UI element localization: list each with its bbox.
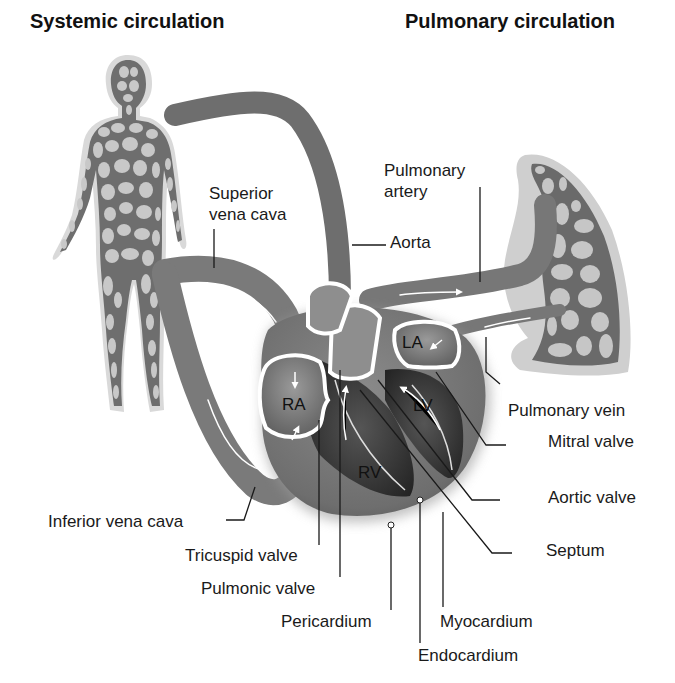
label-septum: Septum — [546, 540, 605, 561]
label-mitral-valve: Mitral valve — [548, 431, 634, 452]
label-pericardium: Pericardium — [281, 611, 372, 632]
endocardium-point — [417, 497, 423, 503]
label-myocardium: Myocardium — [440, 611, 533, 632]
circulation-diagram — [0, 0, 675, 683]
label-pulmonary-artery: Pulmonary artery — [384, 160, 465, 202]
label-aortic-valve: Aortic valve — [548, 487, 636, 508]
chamber-label-ra: RA — [282, 395, 306, 415]
label-superior-vena-cava: Superior vena cava — [209, 183, 287, 225]
chamber-label-rv: RV — [358, 463, 381, 483]
chamber-label-la: LA — [402, 333, 423, 353]
systemic-circulation-title: Systemic circulation — [30, 10, 225, 33]
label-pulmonary-vein: Pulmonary vein — [508, 400, 625, 421]
chamber-label-lv: LV — [413, 396, 433, 416]
label-tricuspid-valve: Tricuspid valve — [185, 545, 298, 566]
label-inferior-vena-cava: Inferior vena cava — [48, 511, 183, 532]
pulmonary-circulation-title: Pulmonary circulation — [405, 10, 615, 33]
label-endocardium: Endocardium — [418, 645, 518, 666]
label-aorta: Aorta — [390, 232, 431, 253]
label-pulmonic-valve: Pulmonic valve — [201, 578, 315, 599]
pericardium-point — [388, 522, 394, 528]
